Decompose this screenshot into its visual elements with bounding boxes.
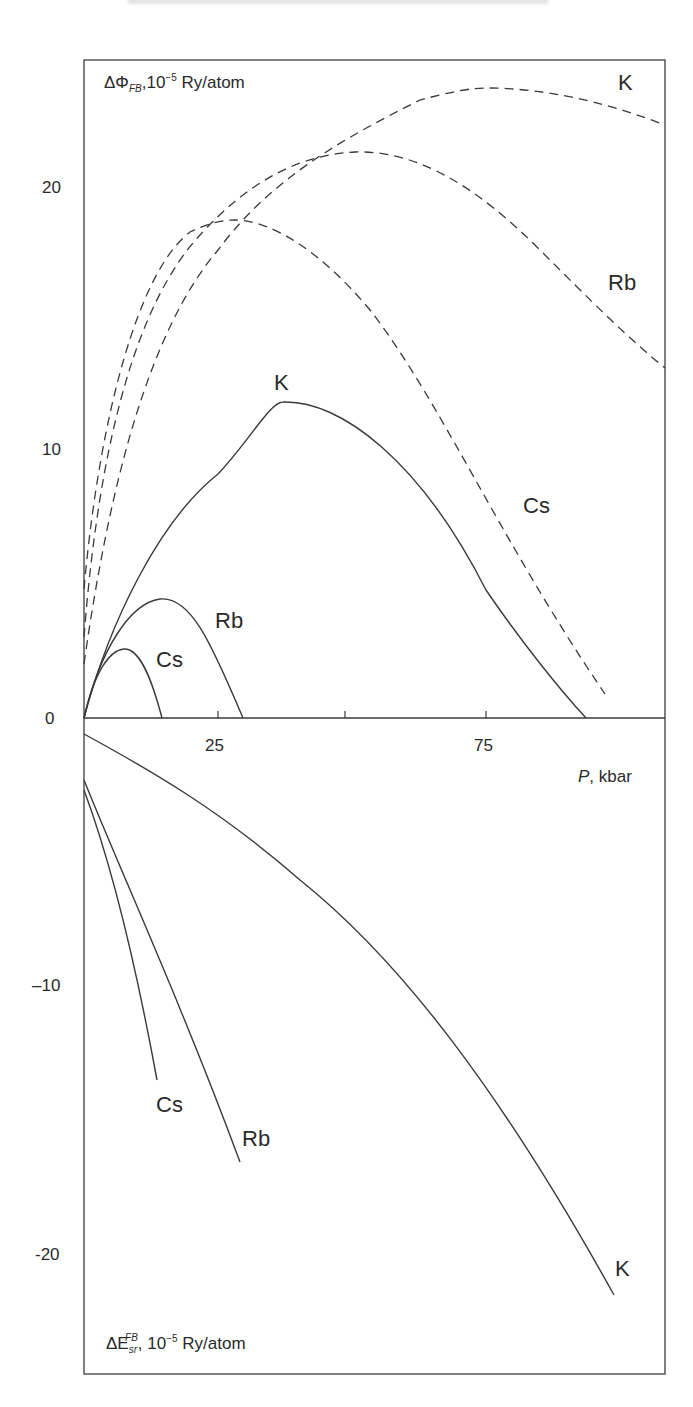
- label-rb-dashed: Rb: [608, 270, 636, 295]
- y-tick-label-20: 20: [42, 178, 61, 197]
- upper-y-axis-title: ΔΦFB,10−5 Ry/atom: [104, 72, 245, 94]
- x-axis-title: P, kbar: [578, 767, 632, 786]
- x-tick-label-75: 75: [474, 736, 493, 755]
- y-tick-label-minus10: –10: [32, 976, 60, 995]
- y-tick-label-minus20: -20: [35, 1245, 60, 1264]
- y-tick-label-10: 10: [42, 440, 61, 459]
- plot-frame: [84, 60, 665, 1374]
- lower-y-axis-title: ΔEsrFB, 10−5 Ry/atom: [106, 1332, 246, 1355]
- label-cs-lower: Cs: [156, 1092, 183, 1117]
- curve-cs-lower: [84, 790, 157, 1080]
- curve-cs-dashed: [84, 220, 605, 694]
- label-cs-dashed: Cs: [523, 493, 550, 518]
- label-k-dashed: K: [618, 70, 633, 95]
- curve-k-dashed: [84, 88, 665, 664]
- label-rb-solid-upper: Rb: [215, 608, 243, 633]
- curve-cs-solid-upper: [84, 649, 162, 718]
- curve-k-lower: [84, 734, 614, 1295]
- x-tick-label-25: 25: [205, 736, 224, 755]
- label-rb-lower: Rb: [242, 1126, 270, 1151]
- label-k-lower: K: [615, 1256, 630, 1281]
- y-tick-label-0: 0: [45, 709, 54, 728]
- curve-rb-dashed: [84, 152, 665, 637]
- chart: 20 10 0 –10 -20 25 75 P, kbar ΔΦFB,10−5 …: [0, 0, 693, 1407]
- label-cs-solid-upper: Cs: [156, 647, 183, 672]
- label-k-solid-upper: K: [274, 370, 289, 395]
